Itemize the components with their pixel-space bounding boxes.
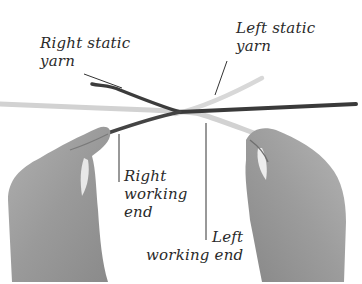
label-line: working end bbox=[146, 246, 243, 264]
label-line: Left static bbox=[236, 19, 315, 37]
leader-left-static bbox=[215, 61, 227, 95]
left-hand bbox=[245, 128, 346, 282]
label-left-static-yarn: Left static yarn bbox=[236, 19, 315, 55]
label-line: yarn bbox=[40, 52, 130, 70]
right-hand bbox=[8, 127, 110, 282]
label-line: Right static bbox=[40, 34, 130, 52]
yarn-diagram: Right static yarn Left static yarn Right… bbox=[0, 0, 362, 284]
light-yarn-strand bbox=[0, 78, 262, 136]
label-right-static-yarn: Right static yarn bbox=[40, 34, 130, 70]
label-line: working bbox=[124, 185, 188, 203]
label-line: yarn bbox=[236, 37, 315, 55]
label-left-working-end: Left working end bbox=[146, 228, 243, 264]
label-right-working-end: Right working end bbox=[124, 167, 188, 221]
label-line: end bbox=[124, 203, 188, 221]
label-line: Left bbox=[146, 228, 243, 246]
label-line: Right bbox=[124, 167, 188, 185]
